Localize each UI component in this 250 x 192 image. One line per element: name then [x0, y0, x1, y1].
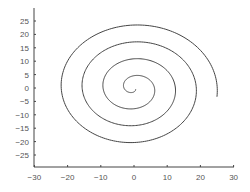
x-tick-label: −30 — [28, 173, 42, 182]
y-tick-label: −25 — [15, 151, 29, 160]
y-tick-label: −15 — [15, 124, 29, 133]
x-tick-label: 10 — [163, 173, 172, 182]
y-tick-label: −5 — [20, 97, 30, 106]
y-tick-label: 15 — [20, 44, 29, 53]
spiral-line — [61, 25, 217, 143]
y-tick-label: 10 — [20, 57, 29, 66]
y-tick-label: 25 — [20, 17, 29, 26]
y-ticks: 2520151050−5−10−15−20−25 — [15, 17, 36, 160]
x-tick-label: −20 — [61, 173, 75, 182]
x-tick-label: −10 — [94, 173, 108, 182]
y-tick-label: 5 — [25, 71, 30, 80]
y-tick-label: 0 — [25, 84, 30, 93]
y-tick-label: −10 — [15, 111, 29, 120]
axes — [34, 8, 234, 167]
y-tick-label: −20 — [15, 138, 29, 147]
x-tick-label: 20 — [196, 173, 205, 182]
x-tick-label: 30 — [229, 173, 238, 182]
x-tick-label: 0 — [132, 173, 137, 182]
x-ticks: −30−20−100102030 — [28, 165, 239, 182]
y-tick-label: 20 — [20, 30, 29, 39]
spiral-chart: −30−20−100102030 2520151050−5−10−15−20−2… — [0, 0, 250, 192]
